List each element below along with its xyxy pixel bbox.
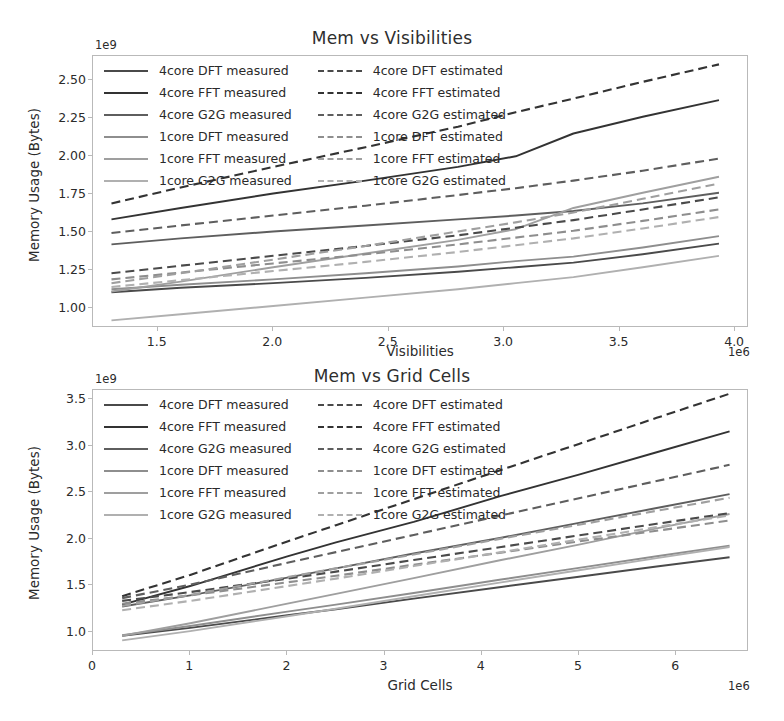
y-tick-label: 1.25 <box>40 262 86 277</box>
legend-item[interactable]: 1core FFT measured <box>104 148 292 170</box>
x-tick-mark <box>675 651 676 655</box>
legend-item[interactable]: 1core G2G estimated <box>318 170 506 192</box>
legend-line-swatch-icon <box>104 492 148 494</box>
legend-item[interactable]: 1core DFT estimated <box>318 460 506 482</box>
x-tick-label: 6 <box>671 658 679 673</box>
x-tick-mark <box>92 651 93 655</box>
y-tick-label: 2.25 <box>40 110 86 125</box>
legend-line-swatch-icon <box>318 404 362 406</box>
legend-item[interactable]: 4core G2G measured <box>104 438 292 460</box>
legend-item[interactable]: 1core FFT estimated <box>318 148 506 170</box>
y-tick-label: 1.75 <box>40 186 86 201</box>
x-tick-label: 5 <box>574 658 582 673</box>
y-tick-label: 1.5 <box>40 577 86 592</box>
legend-item[interactable]: 1core G2G measured <box>104 504 292 526</box>
y-tick-label: 1.0 <box>40 623 86 638</box>
legend-item[interactable]: 1core FFT estimated <box>318 482 506 504</box>
legend-line-swatch-icon <box>104 136 148 138</box>
legend-line-swatch-icon <box>104 114 148 116</box>
legend-visibilities: 4core DFT measured4core DFT estimated4co… <box>104 60 506 192</box>
legend-line-swatch-icon <box>104 158 148 160</box>
legend-item[interactable]: 1core DFT measured <box>104 126 292 148</box>
y-tick-mark <box>88 398 92 399</box>
legend-line-swatch-icon <box>318 70 362 72</box>
data-series-line <box>111 184 718 284</box>
legend-item[interactable]: 1core DFT measured <box>104 460 292 482</box>
legend-item[interactable]: 4core DFT measured <box>104 394 292 416</box>
legend-item[interactable]: 4core FFT measured <box>104 82 292 104</box>
y-axis-offset-visibilities: 1e9 <box>95 38 117 52</box>
legend-item[interactable]: 4core DFT estimated <box>318 60 506 82</box>
legend-item[interactable]: 4core DFT measured <box>104 60 292 82</box>
x-tick-mark <box>388 327 389 331</box>
legend-item[interactable]: 1core G2G estimated <box>318 504 506 526</box>
legend-item-label: 4core FFT measured <box>159 421 286 434</box>
legend-item[interactable]: 1core DFT estimated <box>318 126 506 148</box>
legend-gridcells: 4core DFT measured4core DFT estimated4co… <box>104 394 506 526</box>
y-tick-mark <box>88 155 92 156</box>
data-series-line <box>122 513 729 601</box>
legend-item-label: 1core FFT measured <box>159 153 286 166</box>
legend-item-label: 1core G2G estimated <box>373 509 506 522</box>
x-tick-label: 4 <box>477 658 485 673</box>
legend-item-label: 1core FFT estimated <box>373 487 501 500</box>
data-series-line <box>111 244 718 293</box>
y-tick-mark <box>88 445 92 446</box>
legend-item-label: 1core G2G estimated <box>373 175 506 188</box>
legend-item-label: 4core DFT measured <box>159 399 289 412</box>
y-tick-label: 2.5 <box>40 484 86 499</box>
legend-item[interactable]: 4core FFT estimated <box>318 82 506 104</box>
x-tick-label: 1 <box>185 658 193 673</box>
legend-item-label: 1core G2G measured <box>159 175 292 188</box>
page-title-gridcells: Mem vs Grid Cells <box>0 366 784 386</box>
y-tick-label: 2.0 <box>40 530 86 545</box>
legend-item-label: 1core FFT measured <box>159 487 286 500</box>
legend-item-label: 4core FFT estimated <box>373 421 501 434</box>
y-axis-offset-gridcells: 1e9 <box>95 372 117 386</box>
legend-item[interactable]: 1core FFT measured <box>104 482 292 504</box>
legend-line-swatch-icon <box>104 404 148 406</box>
legend-item-label: 1core DFT estimated <box>373 131 503 144</box>
legend-item-label: 4core FFT estimated <box>373 87 501 100</box>
legend-line-swatch-icon <box>318 136 362 138</box>
legend-item[interactable]: 4core G2G estimated <box>318 104 506 126</box>
legend-line-swatch-icon <box>318 114 362 116</box>
x-tick-mark <box>157 327 158 331</box>
legend-item[interactable]: 4core DFT estimated <box>318 394 506 416</box>
legend-line-swatch-icon <box>318 470 362 472</box>
figure-page: Mem vs Visibilities 1e9 1e6 1.001.251.50… <box>0 0 784 721</box>
y-tick-mark <box>88 79 92 80</box>
legend-line-swatch-icon <box>318 180 362 182</box>
legend-item-label: 4core FFT measured <box>159 87 286 100</box>
x-tick-mark <box>272 327 273 331</box>
y-tick-mark <box>88 193 92 194</box>
legend-item[interactable]: 1core G2G measured <box>104 170 292 192</box>
x-tick-label: 2 <box>282 658 290 673</box>
legend-item-label: 1core G2G measured <box>159 509 292 522</box>
legend-line-swatch-icon <box>104 180 148 182</box>
y-tick-label: 1.00 <box>40 300 86 315</box>
legend-item[interactable]: 4core G2G measured <box>104 104 292 126</box>
legend-item-label: 4core DFT estimated <box>373 399 503 412</box>
x-tick-mark <box>189 651 190 655</box>
x-tick-mark <box>578 651 579 655</box>
legend-line-swatch-icon <box>318 426 362 428</box>
legend-item-label: 1core FFT estimated <box>373 153 501 166</box>
y-tick-mark <box>88 584 92 585</box>
page-title-visibilities: Mem vs Visibilities <box>0 28 784 48</box>
legend-line-swatch-icon <box>104 92 148 94</box>
y-tick-mark <box>88 538 92 539</box>
legend-item-label: 4core G2G estimated <box>373 109 506 122</box>
legend-item[interactable]: 4core FFT estimated <box>318 416 506 438</box>
legend-line-swatch-icon <box>318 92 362 94</box>
y-tick-mark <box>88 269 92 270</box>
y-tick-label: 2.50 <box>40 72 86 87</box>
legend-item[interactable]: 4core G2G estimated <box>318 438 506 460</box>
data-series-line <box>111 256 718 321</box>
legend-line-swatch-icon <box>104 514 148 516</box>
legend-line-swatch-icon <box>318 492 362 494</box>
legend-item-label: 4core DFT measured <box>159 65 289 78</box>
x-tick-label: 3 <box>380 658 388 673</box>
legend-item[interactable]: 4core FFT measured <box>104 416 292 438</box>
data-series-line <box>111 197 718 273</box>
